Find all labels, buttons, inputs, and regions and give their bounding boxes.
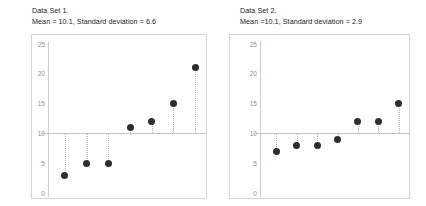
chart-2-ytick-25: 25 <box>243 41 257 48</box>
chart-2-data-point <box>334 136 341 143</box>
chart-1-data-point <box>170 100 177 107</box>
chart-1-stem <box>195 68 197 133</box>
chart-2-title-block: Data Set 2. Mean =10.1, Standard deviati… <box>240 6 362 27</box>
chart-1-ytick-25: 25 <box>31 41 45 48</box>
chart-1-subtitle: Mean = 10.1, Standard deviation = 6.6 <box>32 17 156 28</box>
chart-2-plot-frame: 0510152025 <box>229 34 410 199</box>
chart-1-data-point <box>105 160 112 167</box>
chart-2-subtitle: Mean =10.1, Standard deviation = 2.9 <box>240 17 362 28</box>
chart-1-ytick-20: 20 <box>31 70 45 77</box>
chart-2-data-point <box>375 118 382 125</box>
chart-1-plot-area: 0510152025 <box>32 35 206 198</box>
chart-2-plot-area: 0510152025 <box>230 35 409 198</box>
chart-2-stem <box>399 104 401 133</box>
chart-2-ytick-15: 15 <box>243 100 257 107</box>
chart-1-data-point <box>61 172 68 179</box>
chart-1-data-point <box>192 64 199 71</box>
chart-1-stem <box>65 133 67 175</box>
chart-2-data-point <box>314 142 321 149</box>
chart-2-data-point <box>354 118 361 125</box>
chart-2-ytick-0: 0 <box>243 190 257 197</box>
chart-1-stem <box>87 133 89 163</box>
chart-1-data-point <box>148 118 155 125</box>
chart-1-data-point <box>127 124 134 131</box>
chart-1-stem <box>108 133 110 163</box>
chart-1-title: Data Set 1. <box>32 6 156 17</box>
chart-1-ytick-5: 5 <box>31 160 45 167</box>
chart-1-stem <box>173 104 175 133</box>
chart-1-y-axis-line <box>48 41 49 197</box>
chart-1-plot-frame: 0510152025 <box>31 34 207 199</box>
chart-1-data-point <box>83 160 90 167</box>
chart-panel-dataset-2: Data Set 2. Mean =10.1, Standard deviati… <box>212 0 426 206</box>
chart-1-ytick-15: 15 <box>31 100 45 107</box>
chart-2-title: Data Set 2. <box>240 6 362 17</box>
chart-2-data-point <box>395 100 402 107</box>
chart-panel-dataset-1: Data Set 1. Mean = 10.1, Standard deviat… <box>0 0 212 206</box>
chart-2-data-point <box>293 142 300 149</box>
chart-2-ytick-20: 20 <box>243 70 257 77</box>
chart-2-data-point <box>273 148 280 155</box>
chart-2-ytick-5: 5 <box>243 160 257 167</box>
chart-2-y-axis-line <box>260 41 261 197</box>
chart-1-title-block: Data Set 1. Mean = 10.1, Standard deviat… <box>32 6 156 27</box>
chart-1-ytick-0: 0 <box>31 190 45 197</box>
